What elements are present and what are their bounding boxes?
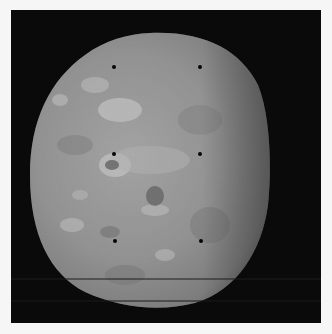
reseau-mark xyxy=(198,65,202,69)
reseau-mark xyxy=(112,152,116,156)
space-image-frame xyxy=(11,10,321,323)
reseau-mark xyxy=(112,65,116,69)
reseau-mark xyxy=(199,239,203,243)
moon-disk xyxy=(20,25,280,315)
reseau-mark xyxy=(113,239,117,243)
reseau-mark xyxy=(198,152,202,156)
moon-illustration xyxy=(11,10,321,323)
